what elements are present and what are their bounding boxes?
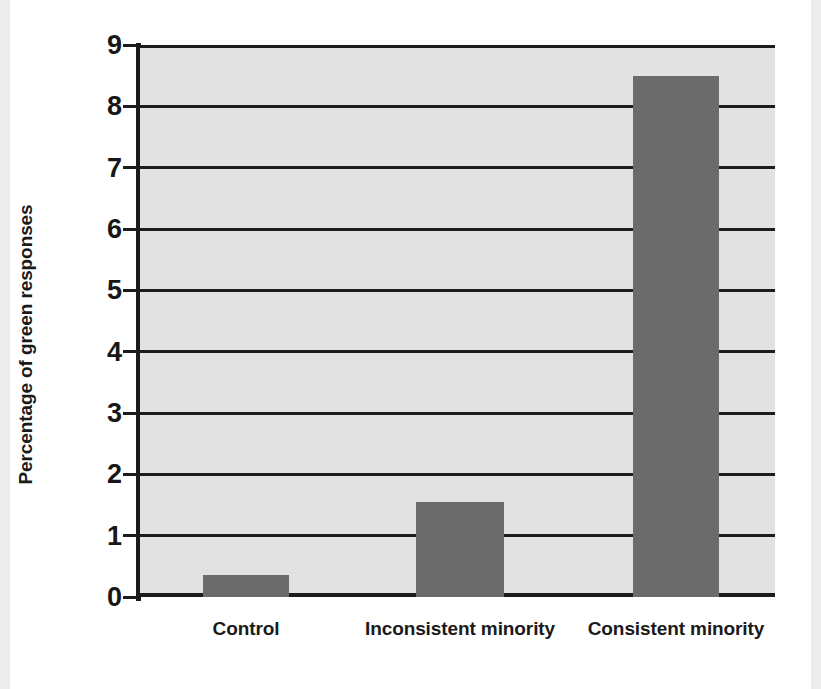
y-axis-tick-label: 0 bbox=[88, 584, 122, 611]
x-axis-label-3: Consistent minority bbox=[588, 618, 765, 640]
y-axis-tick-label: 5 bbox=[88, 277, 122, 304]
bar-3 bbox=[633, 76, 719, 597]
y-axis-tick-0 bbox=[123, 596, 137, 599]
y-axis-tick-7 bbox=[123, 166, 137, 169]
y-axis-tick-6 bbox=[123, 228, 137, 231]
y-axis-tick-label: 2 bbox=[88, 461, 122, 488]
plot-area bbox=[140, 45, 775, 597]
y-axis-tick-2 bbox=[123, 473, 137, 476]
x-axis-label-2: Inconsistent minority bbox=[365, 618, 555, 640]
y-axis-tick-1 bbox=[123, 534, 137, 537]
x-axis-label-1: Control bbox=[213, 618, 280, 640]
bar-1 bbox=[203, 575, 289, 597]
y-axis-title: Percentage of green responses bbox=[0, 0, 52, 689]
y-axis-tick-label: 4 bbox=[88, 338, 122, 365]
y-axis-tick-3 bbox=[123, 412, 137, 415]
y-axis-tick-9 bbox=[123, 44, 137, 47]
y-axis-tick-label: 8 bbox=[88, 93, 122, 120]
y-axis-tick-5 bbox=[123, 289, 137, 292]
y-axis-tick-4 bbox=[123, 350, 137, 353]
bar-chart-figure: Percentage of green responses 0123456789… bbox=[0, 0, 821, 689]
y-axis-tick-8 bbox=[123, 105, 137, 108]
gridline-y-9 bbox=[140, 45, 775, 48]
bar-2 bbox=[416, 502, 504, 597]
y-axis-tick-labels: 0123456789 bbox=[54, 0, 122, 689]
page-edge-right bbox=[811, 0, 821, 689]
y-axis-tick-label: 6 bbox=[88, 216, 122, 243]
y-axis-tick-label: 1 bbox=[88, 522, 122, 549]
y-axis-tick-label: 7 bbox=[88, 154, 122, 181]
y-axis-tick-label: 9 bbox=[88, 32, 122, 59]
y-axis-tick-label: 3 bbox=[88, 400, 122, 427]
x-axis-tick-labels: ControlInconsistent minorityConsistent m… bbox=[140, 618, 775, 648]
